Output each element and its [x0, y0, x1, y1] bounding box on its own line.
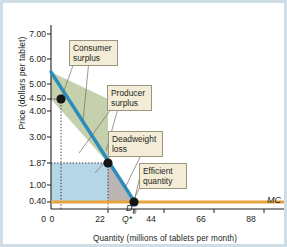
callout-efficient-quantity: Efficient quantity	[139, 163, 187, 189]
callout-producer-surplus: Producer surplus	[107, 85, 152, 111]
callout-consumer-surplus: Consumer surplus	[69, 40, 118, 66]
plot-area	[3, 3, 287, 247]
mc-curve-label: MC	[267, 195, 281, 205]
callout-deadweight-loss: Deadweight loss	[108, 131, 163, 157]
y-axis-ticks	[47, 34, 51, 202]
point-marker-187	[103, 158, 112, 167]
economics-chart-figure: Price (dollars per tablet) 7.00 6.00 5.0…	[0, 0, 287, 247]
demand-curve-label-subscript: 0	[133, 208, 137, 215]
point-marker-450	[56, 94, 65, 103]
x-axis-title: Quantity (millions of tablets per month)	[43, 234, 287, 243]
producer-surplus-region	[51, 163, 108, 202]
demand-curve-label: D0	[126, 203, 136, 215]
